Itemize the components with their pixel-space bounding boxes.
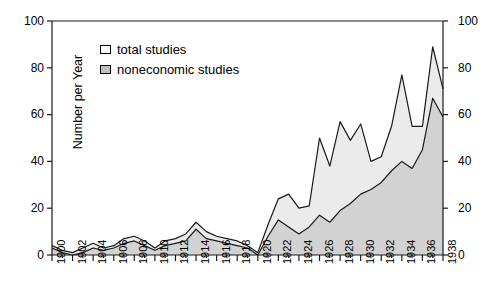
legend-swatch-total-studies (100, 45, 111, 54)
x-tick-label-1932: 1932 (385, 240, 396, 264)
legend-label-noneconomic-studies: noneconomic studies (117, 63, 239, 76)
x-tick-label-1910: 1910 (159, 240, 170, 264)
x-tick-label-1928: 1928 (344, 240, 355, 264)
y-right-tick-label-100: 100 (458, 15, 488, 27)
x-tick-label-1936: 1936 (426, 240, 437, 264)
y-tick-label-20: 20 (14, 202, 44, 214)
x-tick-label-1918: 1918 (241, 240, 252, 264)
y-tick-label-40: 40 (14, 155, 44, 167)
chart-legend: total studies noneconomic studies (100, 40, 239, 80)
x-tick-label-1934: 1934 (406, 240, 417, 264)
legend-item-total-studies: total studies (100, 40, 239, 58)
x-tick-label-1914: 1914 (200, 240, 211, 264)
y-right-tick-label-40: 40 (458, 155, 488, 167)
x-tick-label-1922: 1922 (282, 240, 293, 264)
y-tick-label-60: 60 (14, 108, 44, 120)
legend-swatch-noneconomic-studies (100, 65, 111, 74)
x-tick-label-1920: 1920 (262, 240, 273, 264)
x-tick-label-1924: 1924 (303, 240, 314, 264)
x-tick-label-1916: 1916 (221, 240, 232, 264)
x-tick-label-1908: 1908 (138, 240, 149, 264)
legend-label-total-studies: total studies (117, 43, 186, 56)
x-tick-label-1930: 1930 (365, 240, 376, 264)
chart-figure: Number per Year 100 80 60 40 20 0 100 80… (0, 0, 501, 306)
y-tick-label-0: 0 (14, 249, 44, 261)
x-tick-label-1912: 1912 (179, 240, 190, 264)
y-tick-label-100: 100 (14, 15, 44, 27)
x-tick-label-1904: 1904 (97, 240, 108, 264)
x-tick-label-1906: 1906 (118, 240, 129, 264)
y-right-tick-label-0: 0 (458, 249, 488, 261)
x-tick-label-1900: 1900 (56, 240, 67, 264)
y-axis-title: Number per Year (71, 22, 85, 182)
x-tick-label-1926: 1926 (324, 240, 335, 264)
y-right-tick-label-80: 80 (458, 62, 488, 74)
x-tick-label-1938: 1938 (447, 240, 458, 264)
y-right-tick-label-60: 60 (458, 108, 488, 120)
y-right-tick-label-20: 20 (458, 202, 488, 214)
legend-item-noneconomic-studies: noneconomic studies (100, 60, 239, 78)
x-tick-label-1902: 1902 (77, 240, 88, 264)
y-tick-label-80: 80 (14, 62, 44, 74)
